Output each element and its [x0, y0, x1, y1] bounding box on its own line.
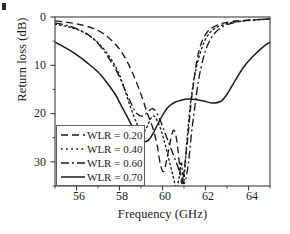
legend-entry-wlr-060: WLR = 0.60 [57, 156, 144, 170]
legend-label-wlr-020: WLR = 0.20 [87, 130, 142, 141]
legend-entry-wlr-040: WLR = 0.40 [57, 142, 144, 156]
legend-swatch-dotted [60, 143, 86, 155]
figure-container: Return loss (dB) Frequency (GHz) 0 10 20… [0, 0, 290, 234]
legend: WLR = 0.20 WLR = 0.40 WLR = 0.60 WLR = 0… [56, 125, 145, 186]
plot-area [0, 0, 290, 234]
legend-entry-wlr-070: WLR = 0.70 [57, 170, 144, 184]
legend-entry-wlr-020: WLR = 0.20 [57, 128, 144, 142]
legend-label-wlr-070: WLR = 0.70 [87, 172, 142, 183]
legend-label-wlr-060: WLR = 0.60 [87, 158, 142, 169]
legend-label-wlr-040: WLR = 0.40 [87, 144, 142, 155]
legend-swatch-solid [60, 171, 86, 183]
legend-swatch-dashed [60, 129, 86, 141]
legend-swatch-dashdot [60, 157, 86, 169]
